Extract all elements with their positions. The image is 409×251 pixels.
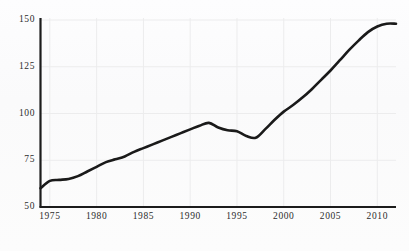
line-chart: 5075100125150 19751980198519901995200020… [0,0,409,251]
y-axis-tick-label: 100 [6,108,35,118]
x-axis-tick-label: 1990 [170,211,210,221]
axes [40,18,397,208]
gridlines [41,18,397,207]
x-axis-tick-label: 1975 [30,211,70,221]
x-axis-tick-label: 2005 [311,211,351,221]
x-axis-tick-label: 1980 [77,211,117,221]
x-axis-tick-label: 2010 [357,211,397,221]
y-axis-tick-label: 75 [6,154,35,164]
x-axis-tick-label: 1995 [217,211,257,221]
y-axis-tick-label: 150 [6,14,35,24]
y-axis-tick-label: 125 [6,61,35,71]
x-axis-tick-label: 1985 [123,211,163,221]
x-axis-tick-label: 2000 [264,211,304,221]
data-line-series [41,24,397,189]
y-axis-tick-label: 50 [6,201,35,211]
